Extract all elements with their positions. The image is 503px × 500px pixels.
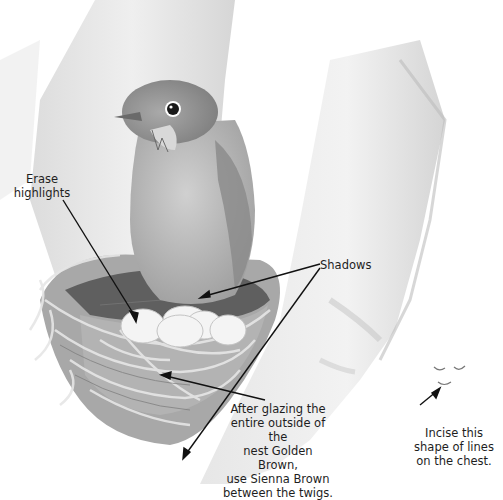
eye [167,103,179,115]
annotation-erase-highlights: Erase highlights [4,172,80,200]
annotation-incise-note: Incise this shape of lines on the chest. [412,426,496,468]
annotation-shadows: Shadows [320,258,380,272]
incise-marks [434,366,465,385]
annotation-glazing-note: After glazing the entire outside of the … [222,402,334,500]
